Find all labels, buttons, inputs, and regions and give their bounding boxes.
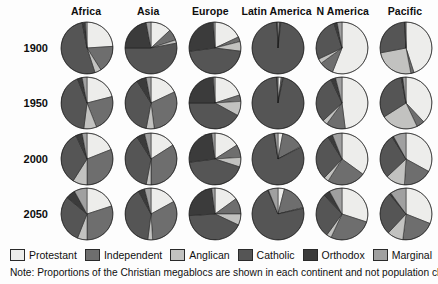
legend-item: Catholic (238, 249, 295, 261)
pie-cell (374, 187, 438, 243)
pie-cell (183, 76, 247, 132)
column-header: Latin America (241, 4, 311, 20)
pie-chart (188, 132, 242, 186)
pie-chart (124, 21, 178, 75)
pie-slice-catholic (380, 22, 406, 53)
pie-row: 1950 (0, 76, 438, 132)
pie-chart (124, 76, 178, 130)
pie-chart (124, 187, 178, 241)
pie-cell (246, 76, 310, 132)
legend-item: Orthodox (303, 249, 365, 261)
pie-cell (183, 20, 247, 76)
pie-slice-protestant (342, 77, 368, 129)
pie-cell (119, 76, 183, 132)
pie-cell (55, 131, 119, 187)
column-headers: AfricaAsiaEuropeLatin AmericaN AmericaPa… (55, 4, 436, 20)
pie-cell (310, 131, 374, 187)
legend: ProtestantIndependentAnglicanCatholicOrt… (10, 246, 432, 263)
column-header: N America (312, 4, 374, 20)
row-label-year: 2000 (0, 153, 55, 165)
pie-cell (119, 20, 183, 76)
pie-chart (251, 76, 305, 130)
pie-cell (55, 187, 119, 243)
pie-slice-orthodox (189, 22, 215, 51)
legend-item: Independent (85, 249, 162, 261)
figure-note: Note: Proportions of the Christian megab… (10, 266, 432, 280)
pie-row-cells (55, 20, 438, 76)
pie-chart (124, 132, 178, 186)
pie-chart (251, 132, 305, 186)
legend-label: Orthodox (322, 249, 365, 261)
legend-label: Protestant (29, 249, 77, 261)
legend-swatch-protestant (10, 249, 25, 261)
pie-cell (374, 131, 438, 187)
legend-label: Catholic (257, 249, 295, 261)
legend-swatch-orthodox (303, 249, 318, 261)
pie-chart (251, 187, 305, 241)
pie-chart (188, 21, 242, 75)
row-label-year: 1900 (0, 42, 55, 54)
pie-chart (315, 132, 369, 186)
pie-slice-orthodox (189, 189, 215, 216)
pie-grid: 1900195020002050 (0, 20, 438, 242)
pie-cell (310, 76, 374, 132)
pie-chart (60, 187, 114, 241)
pie-chart-matrix-figure: AfricaAsiaEuropeLatin AmericaN AmericaPa… (0, 0, 438, 284)
pie-row-cells (55, 131, 438, 187)
pie-chart (60, 76, 114, 130)
pie-cell (310, 20, 374, 76)
pie-chart (379, 187, 433, 241)
pie-slice-catholic (189, 48, 240, 74)
legend-label: Anglican (189, 249, 229, 261)
pie-row: 1900 (0, 20, 438, 76)
legend-swatch-marginal (373, 249, 388, 261)
legend-swatch-catholic (238, 249, 253, 261)
pie-cell (183, 187, 247, 243)
legend-swatch-anglican (170, 249, 185, 261)
pie-row: 2050 (0, 187, 438, 243)
legend-label: Marginal (392, 249, 432, 261)
pie-chart (315, 21, 369, 75)
pie-chart (251, 21, 305, 75)
pie-chart (379, 76, 433, 130)
column-header: Pacific (374, 4, 436, 20)
pie-slice-protestant (87, 22, 113, 48)
pie-cell (183, 131, 247, 187)
pie-row: 2000 (0, 131, 438, 187)
legend-item: Marginal (373, 249, 432, 261)
pie-chart (379, 21, 433, 75)
pie-chart (60, 132, 114, 186)
pie-cell (246, 131, 310, 187)
pie-cell (374, 76, 438, 132)
pie-row-cells (55, 76, 438, 132)
pie-cell (55, 20, 119, 76)
pie-chart (60, 21, 114, 75)
pie-cell (119, 131, 183, 187)
row-label-year: 1950 (0, 97, 55, 109)
pie-chart (379, 132, 433, 186)
pie-cell (246, 187, 310, 243)
pie-cell (374, 20, 438, 76)
column-header: Europe (179, 4, 241, 20)
pie-chart (315, 187, 369, 241)
column-header: Africa (55, 4, 117, 20)
legend-item: Anglican (170, 249, 229, 261)
pie-slice-orthodox (189, 133, 215, 162)
column-header: Asia (117, 4, 179, 20)
legend-item: Protestant (10, 249, 77, 261)
legend-label: Independent (104, 249, 162, 261)
legend-swatch-independent (85, 249, 100, 261)
pie-row-cells (55, 187, 438, 243)
pie-chart (188, 76, 242, 130)
pie-chart (315, 76, 369, 130)
pie-chart (188, 187, 242, 241)
pie-cell (55, 76, 119, 132)
pie-cell (310, 187, 374, 243)
row-label-year: 2050 (0, 208, 55, 220)
pie-slice-orthodox (189, 77, 215, 103)
pie-cell (119, 187, 183, 243)
pie-cell (246, 20, 310, 76)
